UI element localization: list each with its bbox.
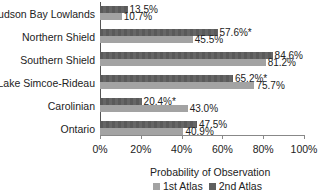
category-label: Hudson Bay Lowlands: [0, 8, 95, 20]
x-tick-label: 0%: [92, 143, 107, 155]
legend: 1st Atlas 2nd Atlas: [153, 180, 262, 192]
bar-chart: Probability of Observation 1st Atlas 2nd…: [0, 0, 321, 192]
x-tick-label: 40%: [171, 143, 192, 155]
data-label: 43.0%: [190, 104, 218, 113]
x-tick-label: 100%: [291, 143, 318, 155]
category-label: Carolinian: [48, 100, 95, 112]
x-tick: [304, 135, 305, 139]
bar-1st-atlas: [100, 36, 193, 43]
bar-1st-atlas: [100, 13, 122, 20]
category-label: Southern Shield: [20, 54, 95, 66]
x-tick: [141, 135, 142, 139]
x-tick: [182, 135, 183, 139]
bar-2nd-atlas: [100, 52, 273, 59]
legend-swatch-1st-atlas: [153, 183, 160, 190]
legend-label-2nd-atlas: 2nd Atlas: [219, 180, 262, 192]
x-tick: [263, 135, 264, 139]
bar-2nd-atlas: [100, 121, 197, 128]
bar-2nd-atlas: [100, 98, 142, 105]
bar-1st-atlas: [100, 59, 266, 66]
y-axis-line: [100, 2, 101, 135]
data-label: 57.6%*: [220, 28, 252, 37]
legend-swatch-2nd-atlas: [209, 183, 216, 190]
data-label: 75.7%: [256, 81, 284, 90]
data-label: 81.2%: [268, 58, 296, 67]
bar-1st-atlas: [100, 128, 183, 135]
x-tick-label: 20%: [130, 143, 151, 155]
bar-1st-atlas: [100, 105, 188, 112]
category-label: Ontario: [61, 123, 95, 135]
bar-1st-atlas: [100, 82, 254, 89]
x-axis-title: Probability of Observation: [150, 166, 270, 178]
category-label: Lake Simcoe-Rideau: [0, 77, 95, 89]
legend-label-1st-atlas: 1st Atlas: [163, 180, 203, 192]
x-tick-label: 80%: [253, 143, 274, 155]
data-label: 45.5%: [195, 35, 223, 44]
category-label: Northern Shield: [22, 31, 95, 43]
x-tick-label: 60%: [212, 143, 233, 155]
data-label: 40.9%: [185, 127, 213, 136]
x-tick: [100, 135, 101, 139]
bar-2nd-atlas: [100, 75, 233, 82]
x-tick: [222, 135, 223, 139]
data-label: 10.7%: [124, 12, 152, 21]
